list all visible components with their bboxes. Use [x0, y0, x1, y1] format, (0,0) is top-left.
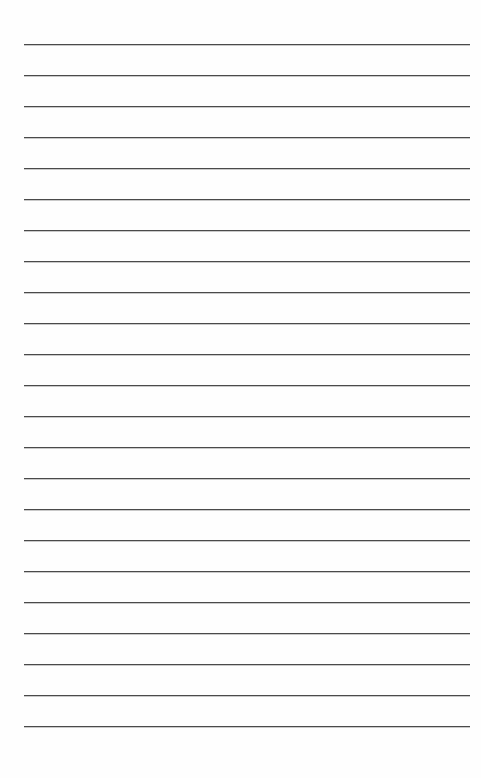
rule-line: [24, 168, 470, 169]
rule-line: [24, 106, 470, 107]
rule-line: [24, 478, 470, 479]
rule-line: [24, 199, 470, 200]
rule-line: [24, 571, 470, 572]
notebook-page: [0, 0, 481, 778]
rule-line: [24, 509, 470, 510]
rule-line: [24, 44, 470, 45]
rule-line: [24, 633, 470, 634]
rule-line: [24, 602, 470, 603]
rule-line: [24, 664, 470, 665]
rule-line: [24, 137, 470, 138]
rule-line: [24, 75, 470, 76]
ruled-lines-area: [0, 0, 481, 778]
rule-line: [24, 726, 470, 727]
rule-line: [24, 323, 470, 324]
rule-line: [24, 385, 470, 386]
rule-line: [24, 540, 470, 541]
rule-line: [24, 354, 470, 355]
rule-line: [24, 261, 470, 262]
rule-line: [24, 447, 470, 448]
rule-line: [24, 230, 470, 231]
rule-line: [24, 292, 470, 293]
rule-line: [24, 416, 470, 417]
rule-line: [24, 695, 470, 696]
